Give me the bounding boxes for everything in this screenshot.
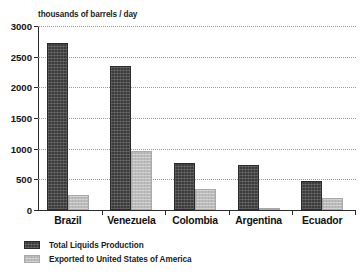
legend-item-total-liquids-production: Total Liquids Production bbox=[24, 238, 324, 252]
bar-brazil-exported-to-usa bbox=[68, 195, 89, 210]
category-label-venezuela: Venezuela bbox=[107, 215, 155, 226]
bar-venezuela-total-liquids-production bbox=[110, 66, 131, 210]
bar-venezuela-exported-to-usa bbox=[131, 151, 152, 210]
gridline-1500 bbox=[38, 118, 356, 119]
bar-colombia-total-liquids-production bbox=[174, 163, 195, 210]
x-axis-line bbox=[38, 210, 356, 211]
y-axis-label-1000: 1000 bbox=[11, 143, 32, 154]
bar-brazil-total-liquids-production bbox=[47, 43, 68, 210]
y-tick-500 bbox=[34, 179, 38, 180]
y-tick-1500 bbox=[34, 118, 38, 119]
y-axis-label-1500: 1500 bbox=[11, 113, 32, 124]
bar-chart: thousands of barrels / day 0500100015002… bbox=[0, 0, 363, 276]
gridline-2000 bbox=[38, 87, 356, 88]
y-tick-0 bbox=[34, 210, 38, 211]
y-tick-2500 bbox=[34, 57, 38, 58]
gridline-1000 bbox=[38, 149, 356, 150]
legend-label-exported-to-united-states-of-america: Exported to United States of America bbox=[49, 255, 192, 264]
y-tick-3000 bbox=[34, 26, 38, 27]
chart-axis-title: thousands of barrels / day bbox=[38, 10, 137, 19]
y-tick-2000 bbox=[34, 87, 38, 88]
category-label-ecuador: Ecuador bbox=[302, 215, 342, 226]
bar-ecuador-exported-to-usa bbox=[322, 198, 343, 210]
bar-argentina-total-liquids-production bbox=[238, 165, 259, 210]
x-tick-1 bbox=[102, 211, 103, 215]
bar-colombia-exported-to-usa bbox=[195, 189, 216, 210]
category-label-colombia: Colombia bbox=[172, 215, 218, 226]
gridline-3000 bbox=[38, 26, 356, 27]
category-label-brazil: Brazil bbox=[54, 215, 81, 226]
y-axis-label-0: 0 bbox=[27, 205, 32, 216]
y-axis-label-3000: 3000 bbox=[11, 21, 32, 32]
x-tick-3 bbox=[229, 211, 230, 215]
bar-argentina-exported-to-usa bbox=[259, 208, 280, 210]
y-axis-label-2000: 2000 bbox=[11, 82, 32, 93]
legend-label-total-liquids-production: Total Liquids Production bbox=[49, 241, 144, 250]
category-label-argentina: Argentina bbox=[235, 215, 282, 226]
legend-swatch-total-liquids-production bbox=[24, 241, 40, 249]
y-axis-label-500: 500 bbox=[16, 174, 32, 185]
x-tick-4 bbox=[292, 211, 293, 215]
y-axis-label-2500: 2500 bbox=[11, 51, 32, 62]
y-tick-1000 bbox=[34, 149, 38, 150]
x-tick-end bbox=[355, 211, 356, 215]
plot-area: 050010001500200025003000 bbox=[38, 26, 356, 211]
bar-ecuador-total-liquids-production bbox=[301, 181, 322, 210]
chart-legend: Total Liquids Production Exported to Uni… bbox=[24, 238, 324, 266]
legend-item-exported-to-united-states-of-america: Exported to United States of America bbox=[24, 252, 324, 266]
x-tick-2 bbox=[165, 211, 166, 215]
legend-swatch-exported-to-united-states-of-america bbox=[24, 255, 40, 263]
gridline-2500 bbox=[38, 57, 356, 58]
